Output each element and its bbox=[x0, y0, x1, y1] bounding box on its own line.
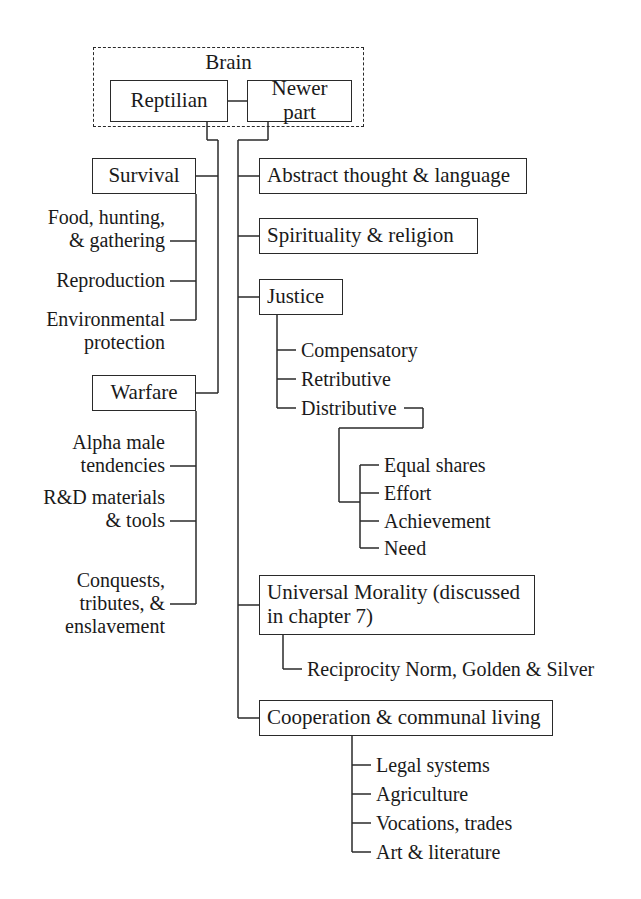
node-justice[interactable]: Justice bbox=[259, 279, 343, 315]
node-warfare-label: Warfare bbox=[93, 381, 195, 405]
node-spirituality-label: Spirituality & religion bbox=[260, 224, 477, 248]
leaf-survival-reproduction: Reproduction bbox=[10, 269, 165, 292]
node-universal-morality-label: Universal Morality (discussed in chapter… bbox=[260, 581, 534, 628]
node-universal-morality[interactable]: Universal Morality (discussed in chapter… bbox=[259, 575, 535, 635]
leaf-justice-compensatory: Compensatory bbox=[301, 339, 541, 362]
leaf-distributive-achievement: Achievement bbox=[384, 510, 614, 533]
brain-group-title: Brain bbox=[93, 50, 364, 75]
leaf-reciprocity-norm: Reciprocity Norm, Golden & Silver bbox=[307, 658, 627, 681]
node-survival-label: Survival bbox=[93, 164, 195, 188]
leaf-warfare-conquests-tributes-enslavement: Conquests, tributes, & enslavement bbox=[10, 569, 165, 637]
node-newer-part-label: Newer part bbox=[248, 77, 351, 124]
leaf-cooperation-art-literature: Art & literature bbox=[376, 841, 606, 864]
node-cooperation[interactable]: Cooperation & communal living bbox=[259, 700, 553, 736]
leaf-warfare-alpha-male-tendencies: Alpha male tendencies bbox=[10, 431, 165, 477]
brain-hierarchy-diagram: Brain Reptilian Newer part Survival Food… bbox=[0, 0, 641, 899]
node-cooperation-label: Cooperation & communal living bbox=[260, 706, 552, 730]
leaf-distributive-need: Need bbox=[384, 537, 614, 560]
leaf-distributive-effort: Effort bbox=[384, 482, 614, 505]
node-abstract-thought-label: Abstract thought & language bbox=[260, 164, 526, 188]
leaf-justice-distributive: Distributive bbox=[301, 397, 411, 420]
node-warfare[interactable]: Warfare bbox=[92, 375, 196, 411]
node-spirituality[interactable]: Spirituality & religion bbox=[259, 218, 478, 254]
leaf-cooperation-legal-systems: Legal systems bbox=[376, 754, 606, 777]
node-newer-part[interactable]: Newer part bbox=[247, 80, 352, 122]
node-survival[interactable]: Survival bbox=[92, 158, 196, 194]
leaf-cooperation-agriculture: Agriculture bbox=[376, 783, 606, 806]
leaf-cooperation-vocations-trades: Vocations, trades bbox=[376, 812, 606, 835]
node-abstract-thought[interactable]: Abstract thought & language bbox=[259, 158, 527, 194]
leaf-justice-retributive: Retributive bbox=[301, 368, 541, 391]
node-reptilian[interactable]: Reptilian bbox=[110, 80, 228, 122]
leaf-survival-food-hunting-gathering: Food, hunting, & gathering bbox=[10, 206, 165, 252]
node-justice-label: Justice bbox=[260, 285, 342, 309]
leaf-distributive-equal-shares: Equal shares bbox=[384, 454, 614, 477]
leaf-survival-environmental-protection: Environmental protection bbox=[10, 308, 165, 354]
node-reptilian-label: Reptilian bbox=[111, 89, 227, 113]
leaf-warfare-rd-materials-tools: R&D materials & tools bbox=[10, 486, 165, 532]
